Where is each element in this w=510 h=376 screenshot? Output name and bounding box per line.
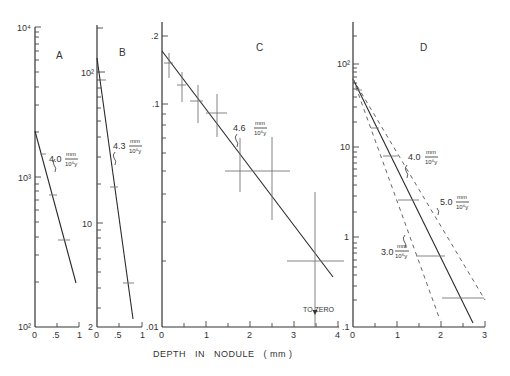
svg-text:mm: mm	[130, 138, 140, 144]
panel-b-title: B	[119, 47, 126, 58]
panel-d-ytick-bot: .1	[342, 322, 350, 332]
panel-c-rate-label: 4.6	[233, 123, 246, 133]
svg-text:2: 2	[247, 330, 252, 340]
svg-text:mm: mm	[397, 243, 407, 249]
panel-b-ytick-bot: 2	[88, 322, 93, 332]
panel-c-ytick-mid: .1	[152, 99, 160, 109]
svg-text:mm: mm	[426, 149, 436, 155]
svg-text:1: 1	[140, 330, 145, 340]
to-zero-label: TO ZERO	[303, 306, 335, 313]
panel-a-ytick-bot: 10²	[18, 322, 31, 332]
svg-text:1: 1	[77, 330, 82, 340]
panel-c-fit-line	[162, 51, 333, 277]
panel-c: TO ZERO 4.6 mm 10⁶y C .2 .1 .01 0 1 2 3 …	[146, 22, 344, 340]
panel-d-ytick-100: 10²	[337, 59, 350, 69]
panel-c-ytick-top: .2	[151, 31, 159, 41]
panel-d-fit-3-0	[353, 79, 440, 320]
panel-d-ytick-10: 10	[340, 142, 350, 152]
panel-a: 4.0 mm 10⁶y A 10⁴ 10³ 10² 0 .5 1	[17, 23, 82, 340]
panel-b: 4.3 mm 10⁶y B 10² 10 2 0 .5 1	[81, 25, 145, 340]
panel-d-rate-3-0: 3.0	[381, 247, 394, 257]
svg-text:10⁶y: 10⁶y	[129, 148, 141, 154]
x-axis-label: DEPTH IN NODULE ( mm )	[153, 349, 293, 359]
svg-text:.5: .5	[114, 330, 122, 340]
svg-text:mm: mm	[66, 151, 76, 157]
svg-text:3: 3	[291, 330, 296, 340]
svg-text:.5: .5	[52, 330, 60, 340]
panel-d-ytick-1: 1	[344, 232, 349, 242]
svg-text:10⁶y: 10⁶y	[456, 204, 468, 210]
svg-text:0: 0	[32, 330, 37, 340]
svg-text:3: 3	[482, 330, 487, 340]
svg-text:0: 0	[350, 330, 355, 340]
panel-d-rate-5-0: 5.0	[440, 197, 453, 207]
svg-text:10⁶y: 10⁶y	[425, 159, 437, 165]
panel-b-ytick-mid: 10	[82, 219, 92, 229]
panel-d-rate-4-0: 4.0	[408, 152, 421, 162]
panel-c-title: C	[256, 42, 263, 53]
svg-text:4: 4	[335, 330, 340, 340]
panel-a-rate-label: 4.0	[49, 154, 62, 164]
panel-d-title: D	[420, 42, 427, 53]
panel-b-rate-label: 4.3	[113, 141, 126, 151]
chart-canvas: 4.0 mm 10⁶y A 10⁴ 10³ 10² 0 .5 1	[0, 0, 510, 376]
svg-text:10⁶y: 10⁶y	[254, 130, 266, 136]
svg-text:mm: mm	[255, 120, 265, 126]
svg-text:0: 0	[94, 330, 99, 340]
panel-c-ytick-bot: .01	[146, 322, 159, 332]
panel-b-fit-line	[97, 58, 133, 319]
svg-text:1: 1	[395, 330, 400, 340]
panel-d-fit-4-0	[353, 79, 473, 323]
panel-d-fit-5-0	[353, 79, 485, 300]
svg-text:0: 0	[159, 330, 164, 340]
svg-text:1: 1	[204, 330, 209, 340]
panel-a-ytick-top: 10⁴	[17, 23, 31, 33]
panel-d: 4.0 mm 10⁶y 5.0 mm 10⁶y 3.0 mm 10⁶y D 10…	[337, 22, 487, 340]
panel-a-title: A	[56, 50, 63, 61]
svg-text:mm: mm	[457, 194, 467, 200]
panel-a-ytick-mid: 10³	[18, 173, 31, 183]
panel-b-ytick-top: 10²	[81, 68, 94, 78]
svg-text:10⁶y: 10⁶y	[395, 253, 407, 259]
svg-text:10⁶y: 10⁶y	[65, 161, 77, 167]
svg-text:2: 2	[438, 330, 443, 340]
